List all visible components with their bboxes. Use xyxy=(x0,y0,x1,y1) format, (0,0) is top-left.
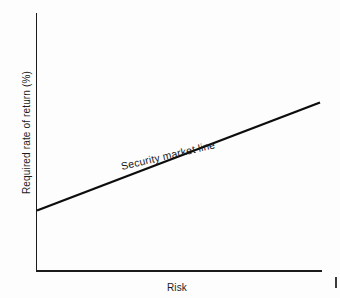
x-axis-title: Risk xyxy=(167,282,188,293)
y-axis-title: Required rate of return (%) xyxy=(21,71,32,194)
chart-canvas: Security market line Required rate of re… xyxy=(0,0,340,298)
security-market-line-label: Security market line xyxy=(120,138,216,172)
page-edge-mark xyxy=(335,277,337,288)
chart-figure: Security market line Required rate of re… xyxy=(0,0,340,298)
